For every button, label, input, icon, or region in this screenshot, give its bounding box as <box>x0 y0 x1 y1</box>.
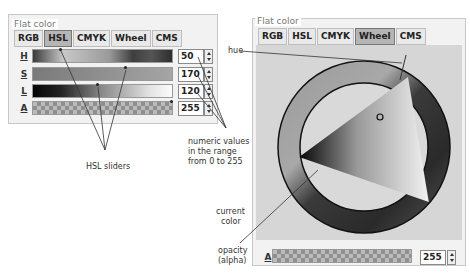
annotation-numeric-1: numeric values <box>188 137 249 147</box>
annotation-opacity-1: opacity <box>218 246 247 256</box>
annotation-numeric-3: from 0 to 255 <box>188 157 243 167</box>
annotation-numeric-2: in the range <box>188 147 237 157</box>
annotation-current-1: current <box>216 207 245 217</box>
annotation-current-2: color <box>221 217 241 227</box>
annotation-hue: hue <box>228 46 243 56</box>
annotation-hsl-sliders: HSL sliders <box>86 162 130 172</box>
annotation-opacity-2: (alpha) <box>218 256 246 266</box>
